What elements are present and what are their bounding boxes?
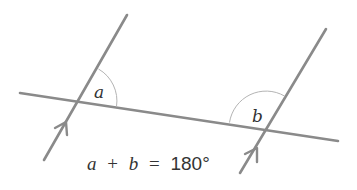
angle-label-b: b <box>252 106 263 126</box>
equation-equals: = <box>149 153 160 174</box>
equation-var-a: a <box>87 153 97 174</box>
co-interior-angles-diagram: a b a + b = 180° <box>0 0 357 190</box>
equation: a + b = 180° <box>87 153 210 174</box>
equation-var-b: b <box>129 153 139 174</box>
equation-plus: + <box>107 153 118 174</box>
parallel-line-right <box>240 29 326 173</box>
equation-value: 180° <box>170 153 209 174</box>
angle-label-a: a <box>94 82 104 102</box>
